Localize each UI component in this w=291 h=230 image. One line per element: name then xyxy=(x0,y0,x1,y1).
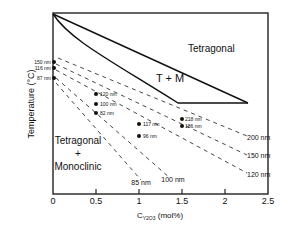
region-tetragonal-top: Tetragonal xyxy=(188,43,235,54)
pt-label-87: 87 nm xyxy=(37,75,51,81)
end-label-100: 100 nm xyxy=(161,176,185,183)
upper-phase-boundary xyxy=(53,14,248,103)
x-tick-1: 1 xyxy=(136,196,141,206)
x-tick-2.5: 2.5 xyxy=(262,196,275,206)
pt-label-186: 186 nm xyxy=(185,123,202,129)
region-monoclinic: Monoclinic xyxy=(54,161,101,172)
pt-label-117: 117 nm xyxy=(143,121,159,127)
x-tick-2: 2 xyxy=(222,196,227,206)
region-t-plus-m: T + M xyxy=(156,72,184,84)
pt-label-120: 120 nm xyxy=(100,91,117,97)
pt-label-116: 116 nm xyxy=(35,65,51,71)
end-label-200: 200 nm xyxy=(247,134,271,141)
x-tick-0.5: 0.5 xyxy=(90,196,103,206)
x-ticks xyxy=(96,189,225,194)
pt-label-82: 82 nm xyxy=(100,110,114,116)
region-tetragonal-left: Tetragonal xyxy=(55,135,102,146)
x-tick-1.5: 1.5 xyxy=(176,196,189,206)
y-axis-label: Temperature (°C) xyxy=(26,69,36,138)
pt-label-96: 96 nm xyxy=(143,133,157,139)
phase-diagram: 150 nm 116 nm 87 nm 120 nm 100 nm 82 nm … xyxy=(0,0,291,230)
pt-label-218: 218 nm xyxy=(185,116,202,122)
end-label-120: 120 nm xyxy=(247,171,271,178)
pt-label-100: 100 nm xyxy=(100,101,117,107)
x-tick-0: 0 xyxy=(50,196,55,206)
region-plus: + xyxy=(75,148,81,159)
x-axis-label: CY2O3 (mol%) xyxy=(137,211,183,221)
end-label-85: 85 nm xyxy=(131,179,151,186)
end-label-150: 150 nm xyxy=(247,152,271,159)
